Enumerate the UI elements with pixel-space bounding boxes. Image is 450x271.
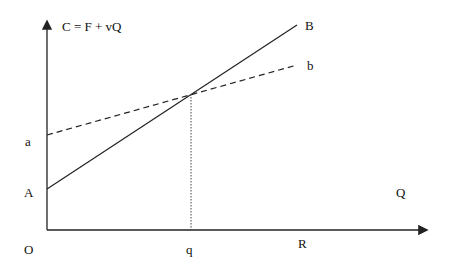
label-b: b (307, 58, 314, 73)
label-A: A (24, 185, 34, 200)
cost-volume-diagram: C = F + vQ B b a A Q O q R (0, 0, 450, 271)
x-axis-label-Q: Q (396, 185, 406, 200)
line-ab-dashed (47, 65, 297, 135)
label-B: B (305, 18, 314, 33)
line-AB-solid (47, 25, 297, 189)
equation-label: C = F + vQ (62, 19, 122, 34)
label-R: R (298, 236, 307, 251)
origin-label: O (24, 242, 33, 257)
label-q: q (186, 242, 193, 257)
label-a: a (25, 134, 31, 149)
